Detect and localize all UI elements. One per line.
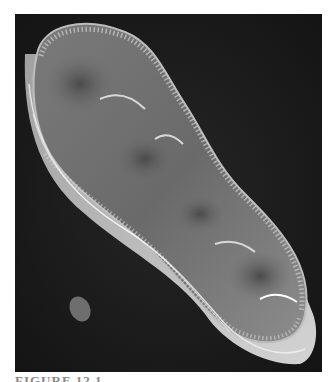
- figure-caption: FIGURE 12.1: [15, 374, 103, 382]
- micrograph-panel: [15, 14, 322, 372]
- diatom-image: [15, 14, 322, 372]
